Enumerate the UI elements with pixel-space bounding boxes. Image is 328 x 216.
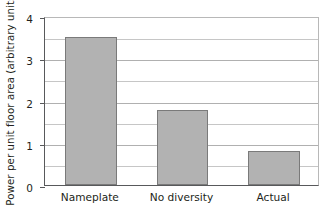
y-axis-tick-label: 4 [26,14,33,25]
y-axis-tick: 3 [40,60,45,61]
plot-area: 01234 [44,17,319,186]
x-axis-category-label: Nameplate [61,192,119,203]
y-axis-tick: 1 [40,145,45,146]
y-axis-tick-label: 2 [26,98,33,109]
y-axis-title: Power per unit floor area (arbitrary uni… [5,0,16,205]
x-axis-category-label: Actual [257,192,290,203]
bar [157,110,209,185]
y-axis-tick-label: 0 [26,183,33,194]
y-axis-tick-label: 3 [26,56,33,67]
bar-chart-figure: Power per unit floor area (arbitrary uni… [0,0,328,216]
x-axis-category-label: No diversity [150,192,213,203]
y-axis-tick-label: 1 [26,141,33,152]
bar [248,151,300,185]
y-axis-title-container: Power per unit floor area (arbitrary uni… [0,0,20,196]
bar [65,37,117,185]
y-axis-tick: 0 [40,187,45,188]
y-axis-tick: 2 [40,103,45,104]
y-axis-tick: 4 [40,18,45,19]
